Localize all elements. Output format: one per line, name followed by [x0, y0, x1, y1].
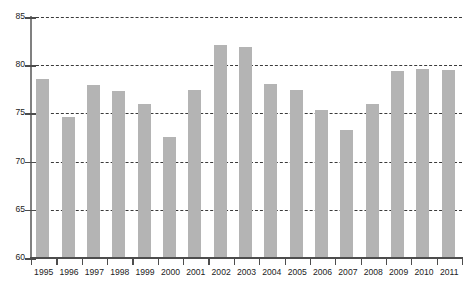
- y-tick-label-wrap: 60: [0, 253, 25, 263]
- bar-2000: [163, 137, 176, 258]
- y-tick-label-wrap: 85: [0, 12, 25, 22]
- y-tick-label-wrap: 75: [0, 108, 25, 118]
- x-tick: [437, 258, 438, 265]
- x-tick: [411, 258, 412, 265]
- y-tick-label: 75: [3, 108, 25, 117]
- y-tick-label-wrap: 80: [0, 60, 25, 70]
- bar-2010: [416, 69, 429, 258]
- x-axis-line: [30, 257, 463, 259]
- bar-2011: [442, 70, 455, 258]
- x-tick: [208, 258, 209, 265]
- x-tick: [361, 258, 362, 265]
- y-tick-label: 85: [3, 12, 25, 21]
- x-tick: [310, 258, 311, 265]
- x-tick: [132, 258, 133, 265]
- y-tick-label-wrap: 65: [0, 205, 25, 215]
- x-tick: [31, 258, 32, 265]
- x-tick: [183, 258, 184, 265]
- bar-2004: [264, 84, 277, 258]
- bar-2006: [315, 110, 328, 258]
- bar-1996: [62, 117, 75, 258]
- bar-1997: [87, 85, 100, 258]
- bar-2005: [290, 90, 303, 258]
- x-tick: [56, 258, 57, 265]
- y-tick-label-wrap: 70: [0, 157, 25, 167]
- y-tick-label: 65: [3, 205, 25, 214]
- bar-2007: [340, 130, 353, 258]
- x-tick: [386, 258, 387, 265]
- bar-2002: [214, 45, 227, 258]
- bar-1995: [36, 79, 49, 258]
- x-tick: [285, 258, 286, 265]
- x-tick: [82, 258, 83, 265]
- bar-2009: [391, 71, 404, 258]
- x-tick: [335, 258, 336, 265]
- x-tick: [158, 258, 159, 265]
- bar-2008: [366, 104, 379, 258]
- y-tick-label: 60: [3, 253, 25, 262]
- x-tick: [107, 258, 108, 265]
- bar-1998: [112, 91, 125, 258]
- bar-series: [31, 17, 462, 258]
- x-tick-label-2011: 2011: [434, 268, 464, 277]
- x-tick: [462, 258, 463, 265]
- y-tick-label: 80: [3, 60, 25, 69]
- y-tick-label: 70: [3, 157, 25, 166]
- bar-2001: [188, 90, 201, 258]
- x-tick: [234, 258, 235, 265]
- bar-chart: 606570758085 199519961997199819992000200…: [0, 0, 474, 291]
- bar-1999: [138, 104, 151, 258]
- bar-2003: [239, 47, 252, 258]
- x-tick: [259, 258, 260, 265]
